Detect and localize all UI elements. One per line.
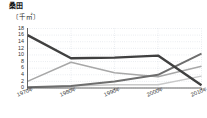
plot-area	[0, 0, 207, 118]
chart-figure: 桑田 〔千㎡〕 181614121086420 1970年1980年1990年2…	[0, 0, 207, 118]
x-tick-year-suffix: 年	[114, 86, 121, 93]
chart-svg	[0, 0, 207, 118]
y-axis-tick-label: 16	[11, 32, 24, 37]
y-axis-tick-label: 10	[11, 52, 24, 57]
y-axis-tick-label: 8	[11, 59, 24, 64]
x-tick-year-suffix: 年	[201, 86, 207, 93]
y-axis-tick-label: 14	[11, 39, 24, 44]
y-axis-tick-label: 6	[11, 65, 24, 70]
data-line-series-dark	[28, 35, 202, 85]
y-axis-tick-label: 2	[11, 79, 24, 84]
data-line-series-mid-light	[28, 62, 202, 81]
y-axis-tick-label: 4	[11, 72, 24, 77]
x-tick-year-suffix: 年	[27, 86, 34, 93]
y-axis-tick-label: 12	[11, 46, 24, 51]
y-axis-tick-label: 18	[11, 26, 24, 31]
